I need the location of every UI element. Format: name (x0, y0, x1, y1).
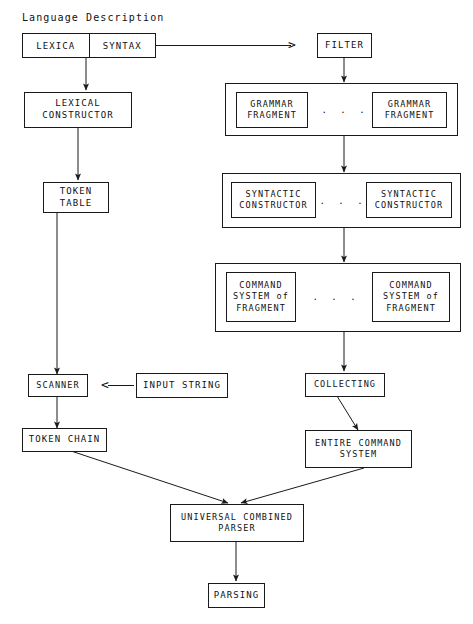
node-scanner[interactable]: SCANNER (28, 374, 88, 397)
node-command-system-left[interactable]: COMMAND SYSTEM of FRAGMENT (226, 272, 296, 322)
ellipsis-grammar-fragments: . . . (320, 105, 370, 115)
node-lexical-constructor[interactable]: LEXICAL CONSTRUCTOR (24, 92, 132, 128)
node-entire-command-system[interactable]: ENTIRE COMMAND SYSTEM (305, 430, 412, 468)
arrowhead-left-icon: < (101, 378, 109, 391)
node-collecting[interactable]: COLLECTING (305, 373, 385, 397)
node-token-chain[interactable]: TOKEN CHAIN (22, 428, 107, 452)
node-lexica-label: LEXICA (23, 34, 89, 57)
node-syntactic-constructor-right[interactable]: SYNTACTIC CONSTRUCTOR (366, 182, 452, 218)
node-input-string[interactable]: INPUT STRING (136, 373, 228, 398)
edge-collecting-to-entire-command-system (337, 396, 358, 430)
node-universal-combined-parser[interactable]: UNIVERSAL COMBINED PARSER (170, 504, 304, 542)
ellipsis-syntactic-constructors: . . . (318, 196, 368, 206)
node-syntactic-constructor-left[interactable]: SYNTACTIC CONSTRUCTOR (231, 182, 316, 218)
node-parsing[interactable]: PARSING (208, 583, 265, 608)
node-command-system-right[interactable]: COMMAND SYSTEM of FRAGMENT (372, 272, 450, 322)
flow-diagram-canvas: > < Language Description LEXICA SYNTAX F… (0, 0, 473, 624)
node-grammar-fragment-left[interactable]: GRAMMAR FRAGMENT (236, 92, 308, 128)
edge-entire-command-system-to-parser (241, 468, 364, 503)
arrowhead-right-icon: > (288, 38, 296, 51)
node-language-description[interactable]: LEXICA SYNTAX (22, 33, 156, 58)
edge-token-chain-to-parser (68, 450, 228, 503)
ellipsis-command-systems: . . . (306, 292, 366, 302)
node-syntax-label: SYNTAX (89, 34, 156, 57)
node-grammar-fragment-right[interactable]: GRAMMAR FRAGMENT (372, 92, 447, 128)
diagram-caption: Language Description (22, 12, 164, 23)
node-filter[interactable]: FILTER (317, 33, 372, 58)
node-token-table[interactable]: TOKEN TABLE (43, 182, 109, 213)
